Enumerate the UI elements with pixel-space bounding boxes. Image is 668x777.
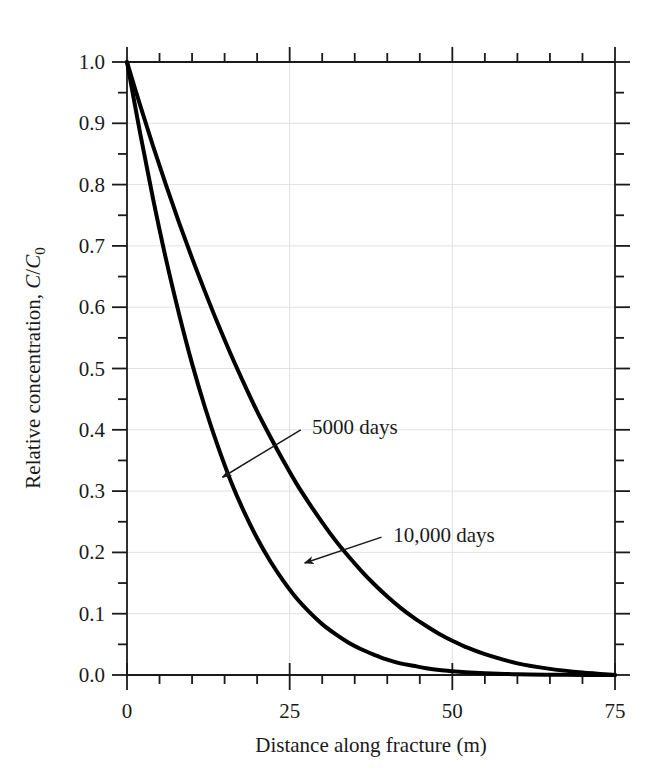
x-tick-label: 75 [605, 699, 626, 723]
y-tick-label: 0.5 [79, 357, 105, 381]
y-axis-title-subscript: 0 [32, 247, 48, 255]
y-tick-label: 0.2 [79, 540, 105, 564]
x-tick-label: 0 [122, 699, 133, 723]
y-tick-label: 0.7 [79, 234, 105, 258]
annotation-leader-1 [305, 537, 382, 563]
concentration-chart: 5000 days10,000 days 02550750.00.10.20.3… [0, 0, 668, 777]
x-tick-label: 25 [279, 699, 300, 723]
x-axis-title: Distance along fracture (m) [255, 733, 486, 757]
figure-container: 5000 days10,000 days 02550750.00.10.20.3… [0, 0, 668, 777]
y-tick-label: 0.4 [79, 418, 106, 442]
curve-annotations: 5000 days10,000 days [223, 415, 495, 563]
y-axis-title-denominator: C [21, 254, 45, 269]
annotation-label-1: 10,000 days [393, 523, 495, 547]
y-tick-label: 0.8 [79, 173, 105, 197]
y-axis-title: Relative concentration, C/C0 [21, 247, 48, 488]
y-tick-label: 1.0 [79, 50, 105, 74]
y-tick-label: 0.0 [79, 663, 105, 687]
x-tick-label: 50 [442, 699, 463, 723]
tick-labels: 02550750.00.10.20.30.40.50.60.70.80.91.0 [79, 50, 626, 723]
y-axis-title-numerator: C [21, 274, 45, 289]
y-tick-label: 0.3 [79, 479, 105, 503]
y-tick-label: 0.6 [79, 295, 105, 319]
annotation-label-0: 5000 days [312, 415, 398, 439]
y-tick-label: 0.9 [79, 111, 105, 135]
y-axis-title-prefix: Relative concentration, [21, 289, 45, 489]
svg-text:Relative concentration, C/C0: Relative concentration, C/C0 [21, 247, 48, 488]
y-tick-label: 0.1 [79, 602, 105, 626]
